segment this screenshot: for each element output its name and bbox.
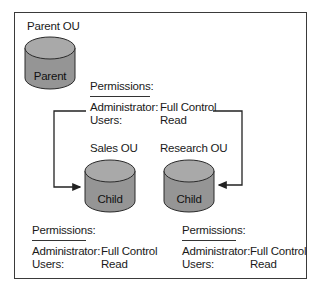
- sales-ou-cylinder-icon: Child: [84, 159, 136, 213]
- sales-permissions-rule: [32, 240, 86, 241]
- research-ou-title: Research OU: [160, 142, 227, 155]
- research-perm-principal-users: Users:: [182, 258, 214, 271]
- sales-perm-right-admin: Full Control: [101, 245, 157, 258]
- research-perm-principal-admin: Administrator:: [182, 245, 250, 258]
- research-perm-right-users: Read: [250, 258, 277, 271]
- sales-ou-title: Sales OU: [90, 142, 138, 155]
- research-perm-right-admin: Full Control: [250, 245, 306, 258]
- sales-perm-principal-users: Users:: [32, 258, 64, 271]
- sales-cylinder-label: Child: [84, 193, 136, 205]
- research-permissions-rule: [182, 240, 236, 241]
- arrow-to-sales-ou: [54, 111, 86, 187]
- sales-perm-principal-admin: Administrator:: [32, 245, 100, 258]
- sales-perm-right-users: Read: [101, 258, 128, 271]
- sales-permissions-heading: Permissions:: [32, 224, 95, 237]
- research-ou-cylinder-icon: Child: [163, 159, 215, 213]
- research-cylinder-label: Child: [163, 193, 215, 205]
- research-permissions-heading: Permissions:: [182, 224, 245, 237]
